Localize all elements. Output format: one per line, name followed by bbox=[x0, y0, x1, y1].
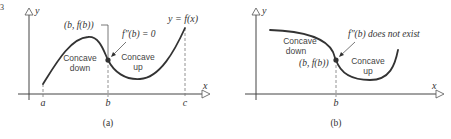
tick-label-a: a bbox=[41, 97, 46, 108]
x-axis-label-a: x bbox=[202, 80, 208, 91]
region-concave-up-b-line1: Concave bbox=[351, 56, 385, 66]
x-axis-label-b: x bbox=[431, 80, 437, 91]
region-concave-up-b-line2: up bbox=[363, 66, 373, 76]
region-concave-down-b-line2: down bbox=[286, 46, 307, 56]
inflection-point-a bbox=[105, 57, 110, 62]
condition-label-a: f″(b) = 0 bbox=[122, 29, 156, 40]
x-axis-arrow-icon bbox=[202, 90, 210, 98]
function-label-a: y = f(x) bbox=[167, 13, 199, 25]
region-concave-up-a-line2: up bbox=[133, 62, 143, 72]
x-axis-arrow-icon bbox=[436, 90, 444, 98]
region-concave-up-a-line1: Concave bbox=[121, 52, 155, 62]
region-concave-down-a-line1: Concave bbox=[63, 53, 97, 63]
y-axis-arrow-icon bbox=[252, 8, 260, 15]
caption-a: (a) bbox=[103, 118, 114, 129]
region-concave-down-a-line2: down bbox=[70, 63, 91, 73]
y-axis-arrow-icon bbox=[25, 8, 33, 15]
point-label-a: (b, f(b)) bbox=[64, 20, 94, 31]
panel-b: y x (b, f(b)) f″(b) does not exist Conca… bbox=[245, 5, 444, 129]
caption-b: (b) bbox=[330, 118, 341, 129]
inflection-point-b bbox=[333, 57, 338, 62]
panel-a: y x (b, f(b)) f″(b) = 0 y = f(x) Concave… bbox=[18, 5, 210, 129]
region-concave-down-b-line1: Concave bbox=[283, 36, 317, 46]
corner-mark: 3 bbox=[0, 3, 4, 12]
y-axis-label-a: y bbox=[34, 5, 40, 16]
tick-label-b: b bbox=[106, 97, 111, 108]
y-axis-label-b: y bbox=[261, 5, 267, 16]
point-label-b: (b, f(b)) bbox=[299, 58, 329, 69]
tick-label-c: c bbox=[183, 97, 188, 108]
condition-label-b: f″(b) does not exist bbox=[348, 29, 420, 40]
tick-label-b-b: b bbox=[334, 97, 339, 108]
inflection-point-figure: 3 y x (b, f(b)) f″(b) = 0 y = f(x) Conca… bbox=[0, 0, 451, 139]
